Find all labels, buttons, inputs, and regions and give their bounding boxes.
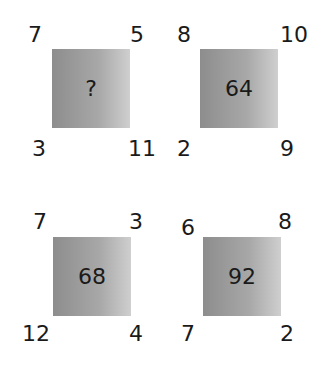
puzzle-2-bottom-right: 9 — [280, 138, 294, 160]
puzzle-1-square: ? — [52, 49, 130, 128]
puzzle-1-bottom-left: 3 — [32, 138, 46, 160]
puzzle-4-top-right: 8 — [278, 211, 292, 233]
puzzle-3-bottom-right: 4 — [129, 323, 143, 345]
puzzle-3-top-right: 3 — [129, 211, 143, 233]
puzzle-1-top-right: 5 — [130, 24, 144, 46]
puzzle-1-center-value: ? — [85, 76, 97, 101]
puzzle-4-square: 92 — [203, 237, 281, 316]
puzzle-3-bottom-left: 12 — [22, 323, 50, 345]
puzzle-3-square: 68 — [53, 237, 131, 316]
puzzle-2-top-right: 10 — [280, 24, 308, 46]
puzzle-1-top-left: 7 — [28, 24, 42, 46]
puzzle-3-center-value: 68 — [78, 264, 106, 289]
puzzle-2-bottom-left: 2 — [177, 138, 191, 160]
puzzle-4-center-value: 92 — [228, 264, 256, 289]
puzzle-2-square: 64 — [200, 49, 278, 128]
puzzle-4-top-left: 6 — [181, 217, 195, 239]
puzzle-2-top-left: 8 — [177, 24, 191, 46]
puzzle-3-top-left: 7 — [33, 211, 47, 233]
puzzle-4-bottom-right: 2 — [280, 323, 294, 345]
puzzle-1-bottom-right: 11 — [128, 138, 156, 160]
puzzle-2-center-value: 64 — [225, 76, 253, 101]
puzzle-4-bottom-left: 7 — [181, 323, 195, 345]
